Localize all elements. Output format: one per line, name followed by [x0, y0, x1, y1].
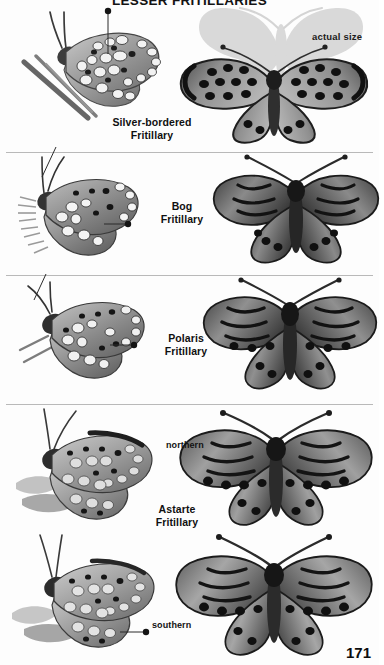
species-label-line-2: Fritillary	[122, 516, 232, 529]
plate-astarte-fritillary: northern Astarte Fritillary	[0, 405, 379, 665]
leader-line-southern	[120, 625, 150, 639]
page-number: 171	[346, 644, 371, 661]
leader-line-bog-lower	[104, 217, 132, 231]
species-label-line-2: Fritillary	[130, 213, 234, 226]
form-label-southern: southern	[152, 620, 191, 630]
species-label-line-1: Bog	[130, 200, 234, 213]
species-label-line-1: Silver-bordered	[96, 116, 208, 129]
actual-size-label: actual size	[312, 31, 362, 42]
species-label-astarte-fritillary: Astarte Fritillary	[122, 503, 232, 528]
specimen-astarte-southern-ventral	[6, 533, 176, 659]
species-label-line-1: Polaris	[134, 332, 238, 345]
leader-line-bog-upper	[38, 145, 62, 179]
leader-line-silver-bordered	[100, 6, 120, 56]
species-label-silver-bordered-fritillary: Silver-bordered Fritillary	[96, 116, 208, 141]
species-label-polaris-fritillary: Polaris Fritillary	[134, 332, 238, 357]
specimen-bog-dorsal	[208, 155, 384, 273]
leader-line-polaris-upper	[30, 272, 52, 302]
species-label-bog-fritillary: Bog Fritillary	[130, 200, 234, 225]
form-label-northern: northern	[166, 440, 204, 450]
plate-silver-bordered-fritillary: actual size Silver-bordered Fritillary	[0, 0, 379, 152]
plate-polaris-fritillary: Polaris Fritillary	[0, 276, 379, 404]
plate-bog-fritillary: Bog Fritillary	[0, 153, 379, 275]
species-label-line-2: Fritillary	[134, 345, 238, 358]
specimen-silver-bordered-ventral	[22, 8, 172, 120]
species-label-line-2: Fritillary	[96, 129, 208, 142]
species-label-line-1: Astarte	[122, 503, 232, 516]
